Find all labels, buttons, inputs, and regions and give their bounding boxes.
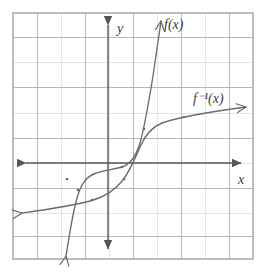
function-label-f-inverse: f⁻¹(x) — [193, 91, 224, 107]
coordinate-plane-figure: y x f(x) f⁻¹(x) — [0, 0, 268, 273]
y-axis-label: y — [115, 21, 124, 36]
graph-svg: y x f(x) f⁻¹(x) — [0, 0, 268, 273]
function-label-f: f(x) — [164, 17, 184, 33]
x-axis-label: x — [237, 172, 245, 187]
